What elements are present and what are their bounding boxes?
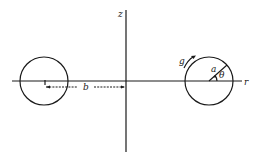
- radius-a-label: a: [211, 64, 216, 74]
- theta-label: θ: [219, 70, 225, 80]
- arrowhead-right-icon: [121, 86, 125, 89]
- dimension-b: b: [46, 82, 125, 92]
- flow-g: g: [179, 56, 196, 69]
- r-axis-label: r: [244, 77, 249, 87]
- dimension-b-label: b: [83, 82, 89, 92]
- arrowhead-left-icon: [46, 86, 50, 89]
- z-axis-label: z: [117, 9, 123, 19]
- torus-cross-section-diagram: z r b a θ g: [0, 0, 260, 162]
- flow-g-label: g: [179, 56, 185, 66]
